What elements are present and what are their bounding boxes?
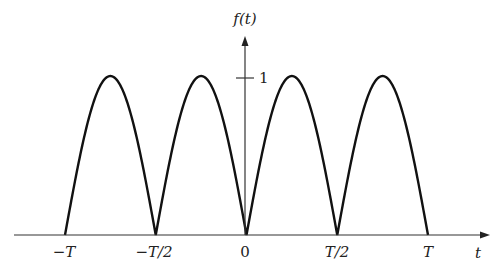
chart: f(t) 1 t −T −T/2 0 T/2 T <box>0 0 495 280</box>
x-tick-label-zero: 0 <box>240 243 250 261</box>
x-tick-label-half-T: T/2 <box>325 243 350 261</box>
y-tick-label-1: 1 <box>259 69 269 87</box>
rectified-sine-curve <box>65 76 428 235</box>
y-axis-arrow-icon <box>242 36 249 46</box>
curve-path <box>65 76 428 235</box>
x-tick-label-neg-T: −T <box>53 243 77 261</box>
x-tick-label-neg-half-T: −T/2 <box>135 243 172 261</box>
y-axis-label: f(t) <box>232 10 256 28</box>
x-tick-label-T: T <box>423 243 434 261</box>
x-axis-label: t <box>475 244 482 262</box>
x-axis-arrow-icon <box>480 232 490 239</box>
